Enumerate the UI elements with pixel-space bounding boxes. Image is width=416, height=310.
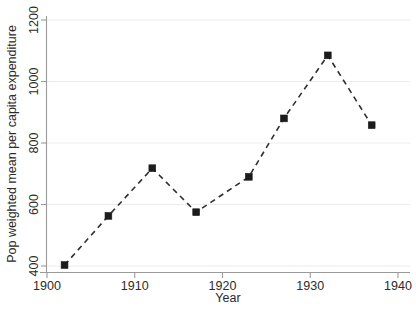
- x-axis: [40, 273, 410, 279]
- data-point-marker: [324, 52, 331, 59]
- line-chart: 40060080010001200 19001910192019301940 Y…: [0, 0, 416, 310]
- chart-container: 40060080010001200 19001910192019301940 Y…: [0, 0, 416, 310]
- y-tick-label: 1200: [27, 6, 41, 34]
- x-tick-marks: [47, 273, 398, 279]
- data-point-marker: [245, 173, 252, 180]
- y-axis-title: Pop weighted mean per capita expenditure: [5, 25, 19, 263]
- x-axis-title: Year: [215, 291, 240, 305]
- y-tick-label: 1000: [27, 68, 41, 96]
- y-tick-marks: [41, 20, 47, 266]
- data-point-marker: [368, 122, 375, 129]
- y-axis: [41, 16, 47, 272]
- data-line-series-1: [65, 55, 372, 265]
- data-point-marker: [193, 209, 200, 216]
- y-tick-label: 600: [27, 194, 41, 215]
- y-tick-labels: 40060080010001200: [27, 6, 41, 276]
- data-point-marker: [149, 165, 156, 172]
- y-tick-label: 800: [27, 133, 41, 154]
- data-markers: [61, 52, 375, 269]
- x-tick-label: 1910: [121, 279, 149, 293]
- data-point-marker: [61, 262, 68, 269]
- series-group: [61, 52, 375, 269]
- data-point-marker: [281, 115, 288, 122]
- data-point-marker: [105, 212, 112, 219]
- x-tick-label: 1930: [296, 279, 324, 293]
- gridlines: [47, 20, 410, 266]
- y-tick-label: 400: [27, 256, 41, 277]
- x-tick-label: 1900: [33, 279, 61, 293]
- x-tick-label: 1940: [384, 279, 412, 293]
